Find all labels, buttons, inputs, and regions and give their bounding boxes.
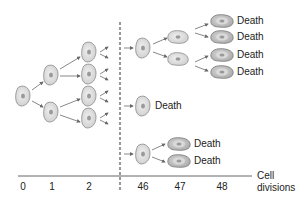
dying-cell-7 [168, 155, 190, 168]
cell-gen46-top [136, 38, 150, 58]
cell-gen1-bottom [44, 102, 58, 122]
cell-gen46-bottom [136, 144, 150, 164]
cell-gen2-4 [82, 108, 96, 128]
axis-tick-47: 47 [174, 181, 185, 192]
cell-gen1-top [44, 65, 58, 85]
arrow [195, 66, 208, 71]
arrow [153, 38, 167, 44]
dying-cell-2 [211, 31, 233, 44]
axis-title-line1: Cell [257, 170, 274, 181]
arrow [152, 144, 165, 150]
death-label: Death [237, 66, 264, 77]
arrow [60, 99, 80, 107]
arrow [152, 157, 165, 162]
death-label: Death [237, 49, 264, 60]
axis-tick-48: 48 [216, 181, 227, 192]
cell-gen0 [16, 86, 30, 106]
arrow [153, 52, 167, 57]
death-label: Death [155, 100, 182, 111]
axis-title-line2: divisions [257, 182, 295, 193]
axis-tick-0: 0 [20, 181, 26, 192]
cell-gen46-middle [136, 96, 150, 116]
dying-cell-4 [211, 66, 233, 79]
arrow [32, 101, 43, 107]
dying-cell-3 [211, 49, 233, 62]
arrow [32, 82, 43, 90]
axis-tick-46: 46 [137, 181, 148, 192]
axis-tick-1: 1 [49, 181, 55, 192]
death-label: Death [194, 138, 221, 149]
fork-arrows [100, 47, 108, 124]
death-label: Death [194, 155, 221, 166]
dying-cell-6 [168, 138, 190, 151]
cell-gen47-1 [168, 31, 188, 44]
cell-gen47-2 [168, 53, 188, 66]
axis-tick-2: 2 [86, 181, 92, 192]
cell-division-diagram: Death Death Death Death Death Death Deat… [0, 0, 308, 204]
arrow [60, 57, 80, 69]
cell-gen2-1 [82, 42, 96, 62]
cell-gen2-2 [82, 64, 96, 84]
death-label: Death [237, 15, 264, 26]
dying-cell-1 [211, 15, 233, 28]
arrow [195, 33, 208, 37]
arrow [195, 56, 208, 62]
arrow [60, 115, 80, 122]
arrow [195, 24, 208, 29]
death-label: Death [237, 31, 264, 42]
cell-gen2-3 [82, 86, 96, 106]
